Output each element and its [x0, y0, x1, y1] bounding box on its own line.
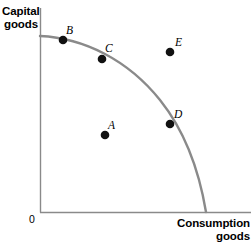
origin-label: 0: [29, 213, 35, 225]
y-axis-title-line1: Capital: [2, 5, 38, 18]
data-point-d: [166, 120, 175, 129]
chart-canvas: [0, 0, 251, 244]
x-axis-title-line1: Consumption: [170, 217, 250, 230]
data-point-label-c: C: [105, 43, 113, 54]
data-point-a: [101, 131, 110, 140]
ppf-chart-figure: Capital goods Consumption goods 0 A B C …: [0, 0, 251, 244]
data-point-label-b: B: [66, 25, 73, 36]
data-point-label-a: A: [108, 120, 115, 131]
data-point-label-e: E: [175, 37, 182, 48]
x-axis-title: Consumption goods: [170, 217, 250, 243]
y-axis-title: Capital goods: [2, 5, 38, 31]
y-axis-title-line2: goods: [2, 18, 38, 31]
data-point-e: [166, 48, 175, 57]
x-axis-title-line2: goods: [170, 230, 250, 243]
data-point-label-d: D: [174, 109, 182, 120]
data-point-c: [98, 55, 107, 64]
ppf-curve: [40, 36, 206, 212]
data-point-b: [59, 36, 68, 45]
